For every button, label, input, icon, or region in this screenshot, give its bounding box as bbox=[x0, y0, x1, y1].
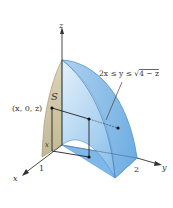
point-top bbox=[87, 117, 90, 120]
x-marker-label: x bbox=[45, 141, 49, 149]
solid-region-diagram: z x y 1 2 S (x, 0, z) x 2x ≤ y ≤ √4 − z bbox=[0, 0, 173, 208]
point-label: (x, 0, z) bbox=[12, 104, 42, 113]
y-tick-label: 2 bbox=[134, 165, 139, 174]
point-x0z bbox=[50, 106, 53, 109]
z-axis-label: z bbox=[58, 21, 64, 30]
x-axis-arrow-icon bbox=[22, 169, 29, 176]
region-condition-label: 2x ≤ y ≤ √4 − z bbox=[99, 69, 159, 78]
y-axis-label: y bbox=[161, 163, 167, 172]
point-bottom bbox=[87, 155, 90, 158]
projection-label-s: S bbox=[51, 91, 58, 102]
x-tick-label: 1 bbox=[39, 164, 44, 173]
x-axis-label: x bbox=[13, 174, 18, 183]
point-interior bbox=[116, 126, 119, 129]
y-axis-arrow-icon bbox=[154, 161, 162, 166]
radicand: 4 − z bbox=[139, 69, 159, 78]
